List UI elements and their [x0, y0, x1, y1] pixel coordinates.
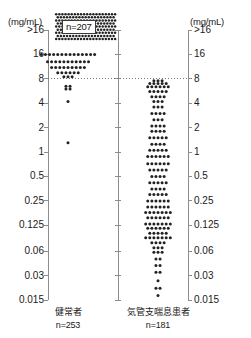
axis-lines	[48, 30, 188, 300]
y-tick-label-right-7: 0.25	[194, 196, 240, 206]
y-tick-label-right-10: 0.03	[194, 271, 240, 281]
y-tick-label-left-2: 8	[2, 74, 44, 84]
group-label-healthy: 健常者 n=253	[30, 306, 106, 331]
y-tick-label-right-1: 16	[194, 49, 240, 59]
y-tick-label-right-2: 8	[194, 74, 240, 84]
group-count-healthy: n=253	[30, 319, 106, 332]
y-tick-label-left-10: 0.03	[2, 271, 44, 281]
dot-plot-figure: (mg/mL) (mg/mL) >161684210.50.250.1250.0…	[0, 0, 251, 338]
y-tick-label-right-5: 1	[194, 147, 240, 157]
y-tick-label-left-6: 0.5	[2, 171, 44, 181]
overflow-count-badge: n=207	[62, 20, 96, 34]
y-tick-label-right-6: 0.5	[194, 171, 240, 181]
group-name-healthy: 健常者	[30, 306, 106, 319]
y-tick-label-left-7: 0.25	[2, 196, 44, 206]
dots-group-asthma	[144, 79, 172, 297]
y-tick-label-right-4: 2	[194, 123, 240, 133]
y-tick-label-left-9: 0.06	[2, 246, 44, 256]
y-tick-label-left-0: >16	[2, 25, 44, 35]
group-label-asthma: 気管支喘息患者 n=181	[108, 306, 208, 331]
y-tick-label-left-3: 4	[2, 98, 44, 108]
y-tick-label-right-8: 0.125	[194, 220, 240, 230]
y-tick-label-right-0: >16	[194, 25, 240, 35]
y-tick-label-left-5: 1	[2, 147, 44, 157]
y-tick-label-right-9: 0.06	[194, 246, 240, 256]
y-tick-label-left-8: 0.125	[2, 220, 44, 230]
y-tick-label-left-11: 0.015	[2, 295, 44, 305]
y-tick-label-right-11: 0.015	[194, 295, 240, 305]
y-tick-label-left-4: 2	[2, 123, 44, 133]
y-tick-label-left-1: 16	[2, 49, 44, 59]
y-tick-label-right-3: 4	[194, 98, 240, 108]
group-count-asthma: n=181	[108, 319, 208, 332]
group-name-asthma: 気管支喘息患者	[108, 306, 208, 319]
